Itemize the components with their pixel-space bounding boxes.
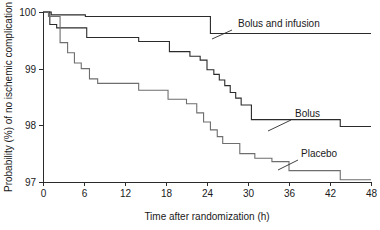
y-tick-label: 99 — [25, 64, 37, 75]
chart-background — [0, 0, 380, 230]
chart-container: 0612182430364248 979899100 Time after ra… — [0, 0, 380, 230]
x-axis-title: Time after randomization (h) — [144, 211, 269, 222]
y-axis-title: Probability (%) of no ischemic complicat… — [3, 2, 14, 192]
series-annotation-label: Bolus — [295, 108, 320, 119]
survival-chart-figure: 0612182430364248 979899100 Time after ra… — [0, 0, 380, 230]
x-tick-label: 30 — [243, 188, 255, 199]
x-tick-label: 48 — [366, 188, 378, 199]
y-tick-label: 97 — [25, 177, 37, 188]
x-tick-label: 42 — [325, 188, 337, 199]
x-tick-label: 12 — [120, 188, 132, 199]
x-tick-label: 24 — [202, 188, 214, 199]
series-annotation-label: Placebo — [301, 148, 338, 159]
x-tick-label: 6 — [82, 188, 88, 199]
x-tick-label: 18 — [161, 188, 173, 199]
x-tick-label: 0 — [41, 188, 47, 199]
x-tick-label: 36 — [284, 188, 296, 199]
y-tick-label: 98 — [25, 120, 37, 131]
series-annotation-label: Bolus and infusion — [238, 18, 320, 29]
y-tick-label: 100 — [19, 7, 36, 18]
